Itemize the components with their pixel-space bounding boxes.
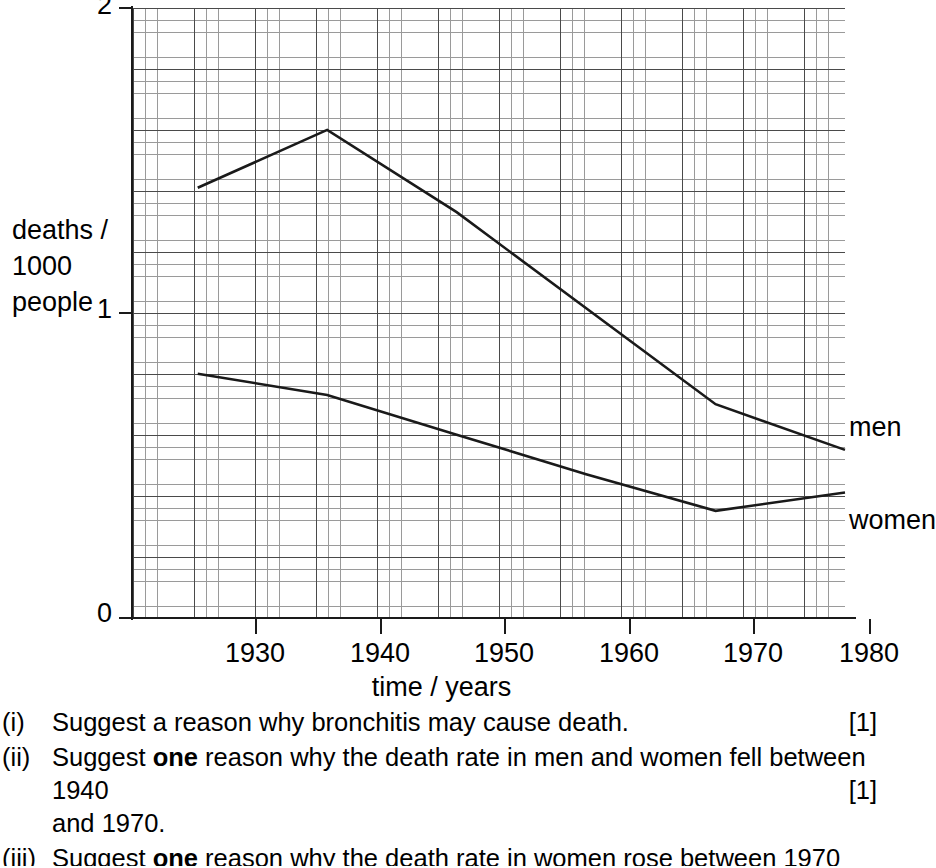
question-text-ii-line1: Suggest one reason why the death rate in… <box>52 741 877 807</box>
question-item-i: (i) Suggest a reason why bronchitis may … <box>0 706 883 739</box>
question-text-i: Suggest a reason why bronchitis may caus… <box>52 706 883 739</box>
series-line-men <box>198 130 845 450</box>
question-list: (i) Suggest a reason why bronchitis may … <box>0 706 883 868</box>
question-item-ii: (ii) Suggest one reason why the death ra… <box>0 741 883 840</box>
question-text-ii-line2: and 1970. <box>52 807 877 840</box>
question-marker-iii: (iii) <box>0 842 52 866</box>
series-label-women: women <box>849 505 936 536</box>
question-iii-pre: Suggest <box>52 844 153 866</box>
series-label-men: men <box>849 412 902 443</box>
question-marks-i: [1] <box>849 706 877 739</box>
series-lines-layer <box>0 0 883 700</box>
question-item-iii: (iii) Suggest one reason why the death r… <box>0 842 883 866</box>
bronchitis-death-rate-chart: 0 1 2 1930 1940 1950 1960 1970 1980 deat… <box>0 0 883 700</box>
series-line-women <box>198 374 845 511</box>
question-ii-bold: one <box>153 743 198 771</box>
question-text-ii: Suggest one reason why the death rate in… <box>52 741 883 840</box>
question-text-iii-line1: Suggest one reason why the death rate in… <box>52 842 877 866</box>
question-marker-ii: (ii) <box>0 741 52 774</box>
question-marker-i: (i) <box>0 706 52 739</box>
question-iii-bold: one <box>153 844 198 866</box>
question-ii-pre: Suggest <box>52 743 153 771</box>
question-marks-ii: [1] <box>849 774 877 807</box>
question-text-iii: Suggest one reason why the death rate in… <box>52 842 883 866</box>
